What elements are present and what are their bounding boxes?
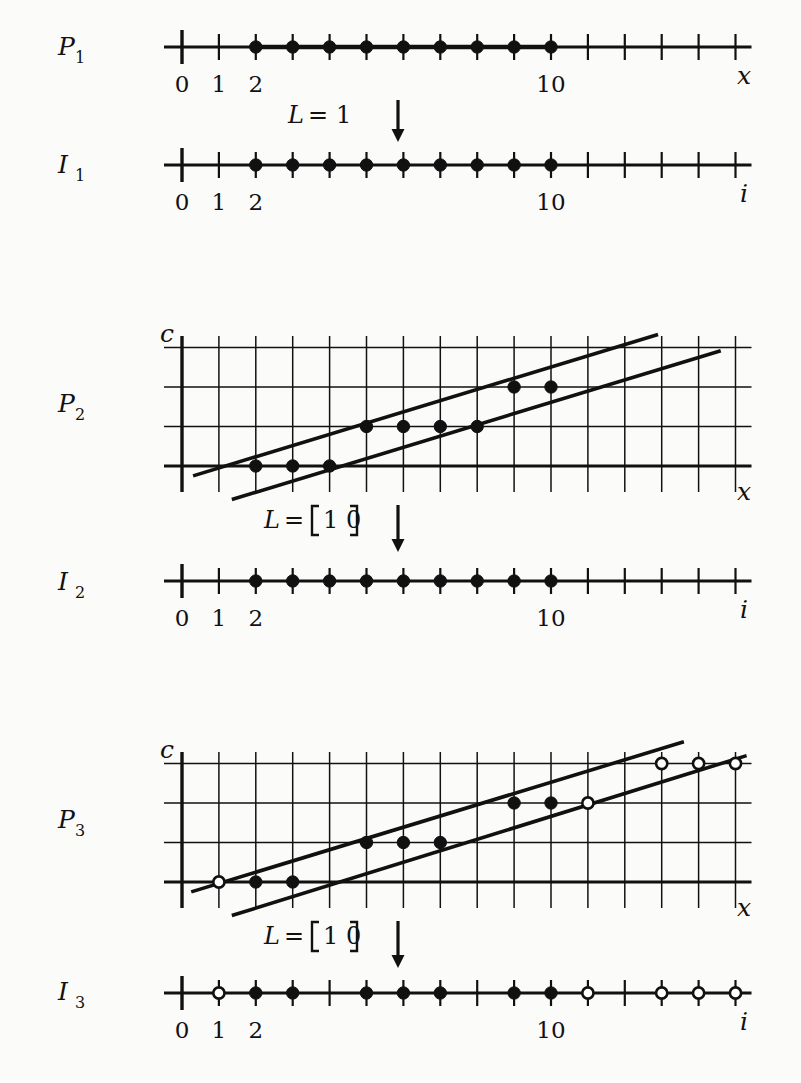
panel-label-P3: P3 [57, 805, 85, 840]
point-I2-7-filled [434, 575, 446, 587]
point-P1-5-filled [360, 41, 372, 53]
point-I3-3-filled [287, 987, 299, 999]
point-I1-7-filled [434, 159, 446, 171]
panel-label-subscript: 2 [75, 405, 85, 424]
tick-label-I2-2: 2 [248, 605, 263, 631]
point-I3-15-open [730, 987, 741, 998]
panel-label-P1: P1 [57, 32, 85, 67]
point-I2-8-filled [471, 575, 483, 587]
transform-bracket-left-T3 [312, 922, 319, 951]
figure-canvas: 01210xP101210iI1cxP201210iI2cxP301210iI3… [0, 0, 801, 1083]
numberline-I1: 01210iI1 [57, 148, 752, 215]
panel-label-glyph: P [57, 389, 76, 418]
point-P2-7-1-filled [434, 420, 446, 432]
transform-T3: L=1 0 [263, 921, 405, 968]
transform-rhs-T1: 1 [336, 101, 351, 129]
point-P3-1-0-open [213, 876, 224, 887]
point-P2-5-1-filled [360, 420, 372, 432]
point-I2-9-filled [508, 575, 520, 587]
point-I3-2-filled [250, 987, 262, 999]
point-I3-1-open [213, 987, 224, 998]
axis-name-I3: i [740, 1007, 748, 1036]
point-I3-9-filled [508, 987, 520, 999]
point-I1-4-filled [323, 159, 335, 171]
point-P2-10-2-filled [545, 381, 557, 393]
panel-label-glyph: I [57, 977, 69, 1006]
axis-name-I2: i [740, 595, 748, 624]
point-P1-9-filled [508, 41, 520, 53]
transform-lhs-T2: L [263, 506, 280, 534]
numberline-I2: 01210iI2 [57, 564, 752, 631]
tick-label-I3-0: 0 [175, 1017, 190, 1043]
point-I3-11-open [582, 987, 593, 998]
point-P3-13-3-open [656, 758, 667, 769]
transform-equals-T2: = [284, 506, 304, 534]
point-I1-2-filled [250, 159, 262, 171]
point-P3-9-2-filled [508, 797, 520, 809]
point-P1-7-filled [434, 41, 446, 53]
panel-label-glyph: I [57, 567, 69, 596]
panel-label-I3: I3 [57, 977, 85, 1012]
point-P2-4-0-filled [323, 460, 335, 472]
transform-equals-T3: = [284, 922, 304, 950]
down-arrow-icon-T2 [392, 539, 405, 552]
tick-label-I3-1: 1 [212, 1017, 227, 1043]
point-I3-13-open [656, 987, 667, 998]
transform-bracket-left-T2 [312, 506, 319, 535]
panel-label-subscript: 2 [75, 583, 85, 602]
bound-line-P3-upper-bound [191, 742, 684, 892]
point-I2-5-filled [360, 575, 372, 587]
down-arrow-icon-T3 [392, 955, 405, 968]
panel-label-I2: I2 [57, 567, 85, 602]
tick-label-P1-2: 2 [248, 71, 263, 97]
transform-rhs-T3: 1 0 [323, 922, 361, 950]
panel-label-subscript: 3 [75, 993, 85, 1012]
tick-label-I2-1: 1 [212, 605, 227, 631]
point-P3-11-2-open [582, 797, 593, 808]
panel-label-subscript: 3 [75, 821, 85, 840]
panel-label-glyph: P [57, 805, 76, 834]
tick-label-P1-1: 1 [212, 71, 227, 97]
tick-label-I1-1: 1 [212, 189, 227, 215]
point-P1-4-filled [323, 41, 335, 53]
point-I3-7-filled [434, 987, 446, 999]
tick-label-I2-0: 0 [175, 605, 190, 631]
panel-label-P2: P2 [57, 389, 85, 424]
point-I1-9-filled [508, 159, 520, 171]
transform-rhs-T2: 1 0 [323, 506, 361, 534]
tick-label-P1-10: 10 [536, 71, 565, 97]
numberline-I3: 01210iI3 [57, 976, 752, 1043]
point-I2-10-filled [545, 575, 557, 587]
point-I1-3-filled [287, 159, 299, 171]
point-P1-6-filled [397, 41, 409, 53]
tick-label-I1-10: 10 [536, 189, 565, 215]
point-I1-6-filled [397, 159, 409, 171]
tick-label-P1-0: 0 [175, 71, 190, 97]
point-P3-6-1-filled [397, 836, 409, 848]
axis-name-I1: i [740, 179, 748, 208]
c-axis-label-P3: c [160, 735, 174, 764]
panel-label-I1: I1 [57, 150, 85, 185]
polyhedral-figure: 01210xP101210iI1cxP201210iI2cxP301210iI3… [0, 0, 801, 1083]
point-I2-3-filled [287, 575, 299, 587]
axis-name-P1: x [737, 61, 751, 90]
transform-T2: L=1 0 [263, 505, 405, 552]
bound-line-P3-lower-bound [232, 756, 747, 916]
axis-name-P2: x [737, 477, 751, 506]
point-P1-10-filled [545, 41, 557, 53]
transform-lhs-T1: L [287, 101, 304, 129]
down-arrow-icon-T1 [392, 129, 405, 142]
panel-label-subscript: 1 [75, 48, 85, 67]
c-axis-label-P2: c [160, 319, 174, 348]
point-I1-5-filled [360, 159, 372, 171]
point-P3-3-0-filled [287, 876, 299, 888]
panel-label-glyph: I [57, 150, 69, 179]
point-P3-10-2-filled [545, 797, 557, 809]
point-P2-9-2-filled [508, 381, 520, 393]
point-I3-5-filled [360, 987, 372, 999]
tick-label-I3-10: 10 [536, 1017, 565, 1043]
point-I2-2-filled [250, 575, 262, 587]
axis-name-P3: x [737, 893, 751, 922]
point-P3-15-3-open [730, 758, 741, 769]
transform-T1: L=1 [287, 100, 405, 142]
